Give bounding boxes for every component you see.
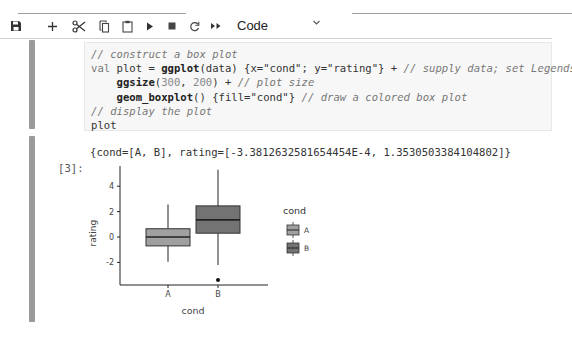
legend-label: A — [304, 226, 310, 235]
legend-title: cond — [283, 205, 306, 216]
y-tick-label: 2 — [109, 208, 114, 217]
y-tick-label: 0 — [109, 233, 114, 242]
y-tick-label: 4 — [109, 182, 114, 191]
legend-label: B — [304, 244, 309, 253]
x-tick-label: A — [165, 290, 171, 299]
x-tick-label: B — [215, 290, 221, 299]
box-plot-chart: -2024ratingABcondcondAB — [0, 0, 572, 339]
y-tick-label: -2 — [106, 258, 114, 267]
y-axis-label: rating — [88, 220, 98, 247]
outlier-point — [216, 278, 220, 282]
x-axis-label: cond — [181, 305, 204, 316]
